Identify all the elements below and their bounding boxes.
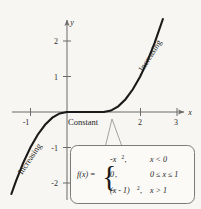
x-tick-label--1: -1	[23, 118, 30, 127]
formula-row-1-comma: ,	[125, 155, 127, 164]
y-tick-label--2: -2	[51, 179, 58, 188]
formula-row-3-value: (x - 1)	[110, 186, 130, 195]
figure-container: -1 2 3 2 1 -1 -2 x y Increasing Constant…	[0, 0, 201, 209]
x-tick-label-3: 3	[174, 118, 178, 127]
formula-row-3-condition: x > 1	[149, 186, 167, 195]
formula-row-2-value: 0	[110, 170, 114, 179]
piecewise-graph-svg: -1 2 3 2 1 -1 -2 x y Increasing Constant…	[0, 0, 201, 209]
annotation-increasing-right: Increasing	[136, 37, 164, 73]
annotation-increasing-left: Increasing	[15, 141, 44, 177]
formula-row-2-condition: 0 ≤ x ≤ 1	[150, 170, 178, 179]
annotation-constant: Constant	[68, 117, 99, 127]
formula-row-1-value: -x	[110, 155, 117, 164]
y-axis-label: y	[69, 18, 74, 27]
y-tick-label--1: -1	[51, 144, 58, 153]
x-axis-label: x	[187, 108, 192, 117]
formula-row-3-comma: ,	[140, 186, 142, 195]
x-tick-label-2: 2	[138, 118, 142, 127]
formula-label: f(x) =	[77, 170, 96, 179]
formula-row-2-comma: ,	[115, 170, 117, 179]
y-tick-label-1: 1	[54, 73, 58, 82]
curve-segment-shifted-quadratic	[104, 19, 163, 112]
formula-row-1-condition: x < 0	[149, 155, 167, 164]
y-tick-label-2: 2	[54, 37, 58, 46]
